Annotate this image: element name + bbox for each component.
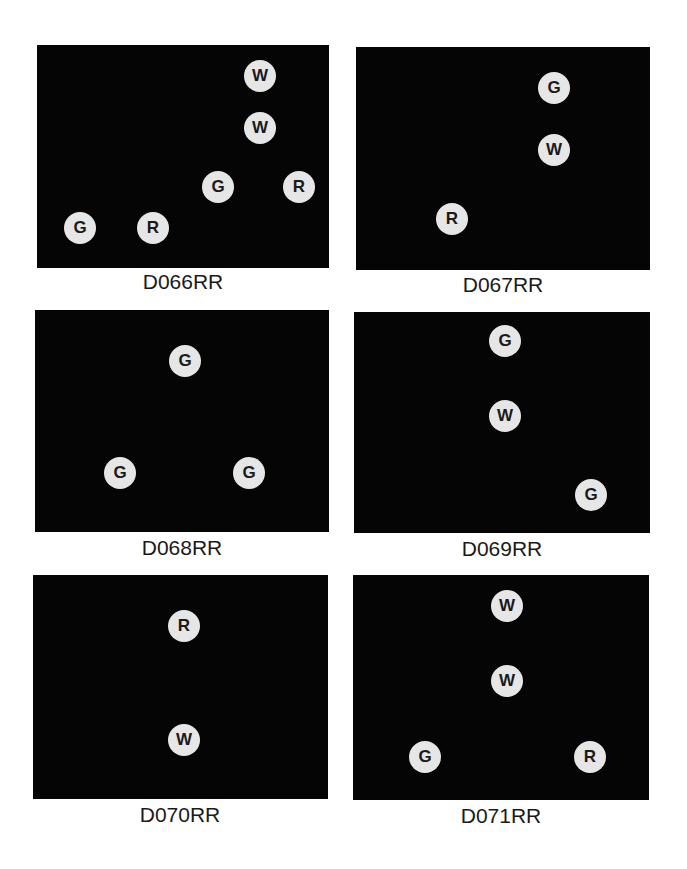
marker-w: W [491, 665, 523, 697]
marker-g: G [489, 325, 521, 357]
panel-caption: D066RR [83, 270, 283, 294]
panel-caption: D071RR [401, 804, 601, 828]
marker-w: W [244, 112, 276, 144]
marker-r: R [574, 741, 606, 773]
marker-r: R [436, 203, 468, 235]
marker-g: G [575, 479, 607, 511]
marker-w: W [168, 724, 200, 756]
panel-d068rr [35, 310, 329, 532]
marker-g: G [64, 212, 96, 244]
marker-g: G [202, 171, 234, 203]
marker-w: W [244, 60, 276, 92]
marker-g: G [169, 345, 201, 377]
marker-g: G [538, 72, 570, 104]
marker-g: G [409, 741, 441, 773]
marker-w: W [491, 590, 523, 622]
panel-d070rr [33, 575, 328, 799]
panel-caption: D069RR [402, 537, 602, 561]
marker-r: R [137, 212, 169, 244]
marker-r: R [283, 171, 315, 203]
marker-w: W [489, 400, 521, 432]
marker-g: G [233, 457, 265, 489]
panel-caption: D070RR [80, 803, 280, 827]
panel-caption: D067RR [403, 273, 603, 297]
marker-w: W [538, 134, 570, 166]
marker-r: R [168, 610, 200, 642]
panel-caption: D068RR [82, 536, 282, 560]
marker-g: G [104, 457, 136, 489]
panel-d067rr [356, 47, 650, 270]
